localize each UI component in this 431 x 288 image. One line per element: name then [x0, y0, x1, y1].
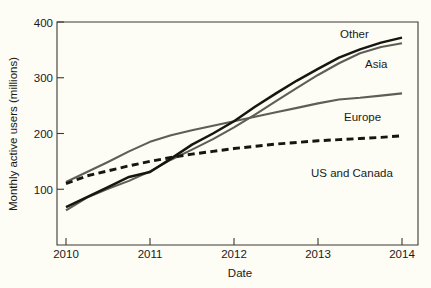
- y-tick-label-200: 200: [34, 128, 53, 140]
- y-tick-label-300: 300: [34, 72, 53, 84]
- y-axis-title: Monthly active users (millions): [7, 57, 19, 211]
- y-tick-label-100: 100: [34, 184, 53, 196]
- chart-container: 400 300 200 100 2010 2011 2012 2013 2014…: [0, 0, 431, 288]
- x-tick-label-2010: 2010: [53, 248, 79, 260]
- line-chart: 400 300 200 100 2010 2011 2012 2013 2014…: [0, 0, 431, 288]
- x-tick-label-2013: 2013: [305, 248, 331, 260]
- x-tick-label-2012: 2012: [221, 248, 247, 260]
- series-label-asia: Asia: [365, 58, 388, 70]
- x-tick-label-2014: 2014: [389, 248, 415, 260]
- series-label-other: Other: [340, 28, 369, 40]
- x-tick-label-2011: 2011: [138, 248, 163, 260]
- x-axis-title: Date: [228, 267, 252, 279]
- series-label-us-and-canada: US and Canada: [311, 167, 393, 179]
- y-tick-label-400: 400: [34, 17, 53, 29]
- series-label-europe: Europe: [344, 111, 381, 123]
